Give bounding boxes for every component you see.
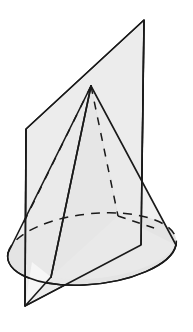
- figure-canvas: A right circular cone viewed in oblique …: [0, 0, 193, 332]
- cone-plane-intersection-figure: [0, 0, 193, 332]
- plane-left-vertical-edge: [25, 129, 26, 306]
